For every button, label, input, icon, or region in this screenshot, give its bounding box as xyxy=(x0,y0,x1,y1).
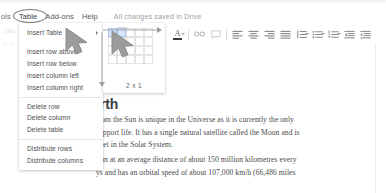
menu-divider xyxy=(19,139,103,140)
grid-cell[interactable] xyxy=(135,28,144,37)
toolbar-divider xyxy=(226,29,227,40)
menu-spacer xyxy=(19,39,103,47)
insert-link-icon[interactable] xyxy=(192,27,207,42)
menu-divider xyxy=(19,97,103,98)
menu-item-table[interactable]: Table xyxy=(15,11,41,22)
chevron-down-icon[interactable] xyxy=(321,33,325,35)
align-right-icon[interactable] xyxy=(262,27,277,42)
menu-bar: ols Table Add-ons Help All changes saved… xyxy=(0,9,386,23)
chevron-right-icon xyxy=(96,31,98,35)
increase-indent-icon[interactable] xyxy=(358,27,373,42)
menu-item-addons[interactable]: Add-ons xyxy=(41,11,78,22)
grid-cell[interactable] xyxy=(126,55,135,64)
menu-option-distribute-columns[interactable]: Distribute columns xyxy=(19,155,103,167)
grid-cell[interactable] xyxy=(108,46,117,55)
chevron-down-icon[interactable] xyxy=(337,33,341,35)
chevron-down-icon[interactable] xyxy=(305,33,309,35)
grid-cell[interactable] xyxy=(126,46,135,55)
grid-cell[interactable] xyxy=(135,46,144,55)
grid-cell[interactable] xyxy=(144,37,153,46)
grid-cell[interactable] xyxy=(144,55,153,64)
menu-option-insert-row-above[interactable]: Insert row above xyxy=(19,47,103,59)
grid-cell[interactable] xyxy=(144,46,153,55)
table-size-label: 2 x 1 xyxy=(103,82,165,89)
menu-item-help[interactable]: Help xyxy=(78,11,102,22)
menu-option-insert-row-below[interactable]: Insert row below xyxy=(19,59,103,71)
align-center-icon[interactable] xyxy=(246,27,261,42)
grid-cell[interactable] xyxy=(108,37,117,46)
menu-option-distribute-rows[interactable]: Distribute rows xyxy=(19,143,103,155)
table-size-picker-submenu: 2 x 1 xyxy=(103,23,165,93)
grid-cell[interactable] xyxy=(126,37,135,46)
grid-cell[interactable] xyxy=(144,28,153,37)
menu-option-delete-column[interactable]: Delete column xyxy=(19,113,103,125)
background-document-text: t - t xyxy=(4,40,12,46)
menu-option-insert-column-right[interactable]: Insert column right xyxy=(19,82,103,94)
line-spacing-icon[interactable] xyxy=(294,27,309,42)
grid-cell[interactable] xyxy=(135,55,144,64)
align-left-icon[interactable] xyxy=(230,27,245,42)
table-size-grid[interactable] xyxy=(108,28,160,72)
menu-option-delete-row[interactable]: Delete row xyxy=(19,101,103,113)
numbered-list-icon[interactable] xyxy=(326,27,341,42)
grid-cell[interactable] xyxy=(135,37,144,46)
grid-cell[interactable] xyxy=(126,28,135,37)
grid-cell[interactable] xyxy=(117,37,126,46)
background-document-text: a lea xyxy=(4,28,15,34)
menu-item-tools[interactable]: ols xyxy=(0,11,15,22)
grid-cell[interactable] xyxy=(108,55,117,64)
align-justify-icon[interactable] xyxy=(278,27,293,42)
menu-option-label: Insert Table xyxy=(27,29,62,36)
grid-cell[interactable] xyxy=(117,46,126,55)
chevron-down-icon[interactable] xyxy=(181,33,185,35)
menu-item-table-label: Table xyxy=(19,12,37,21)
document-paragraph-1: from the Sun is unique in the Universe a… xyxy=(96,114,374,152)
text-color-icon[interactable]: A xyxy=(170,27,185,42)
menu-option-insert-table[interactable]: Insert Table xyxy=(19,27,103,39)
page-right-margin xyxy=(375,44,386,193)
formatting-toolbar: I U A xyxy=(138,26,373,42)
document-paragraph-2: Sun at an average distance of about 150 … xyxy=(96,154,374,179)
grid-cell[interactable] xyxy=(117,28,126,37)
menu-option-insert-column-left[interactable]: Insert column left xyxy=(19,70,103,82)
decrease-indent-icon[interactable] xyxy=(342,27,357,42)
add-comment-icon[interactable] xyxy=(208,27,223,42)
toolbar-divider xyxy=(188,29,189,40)
bulleted-list-icon[interactable] xyxy=(310,27,325,42)
text-color-letter: A xyxy=(174,29,180,38)
toolbar-background xyxy=(0,0,386,5)
grid-cell[interactable] xyxy=(117,55,126,64)
save-status-label: All changes saved in Drive xyxy=(114,13,202,20)
menu-option-delete-table[interactable]: Delete table xyxy=(19,124,103,136)
google-docs-window: ols Table Add-ons Help All changes saved… xyxy=(0,0,386,193)
table-dropdown-menu: Insert Table Insert row above Insert row… xyxy=(19,23,103,170)
grid-cell[interactable] xyxy=(108,28,117,37)
text-color-swatch xyxy=(173,38,182,40)
